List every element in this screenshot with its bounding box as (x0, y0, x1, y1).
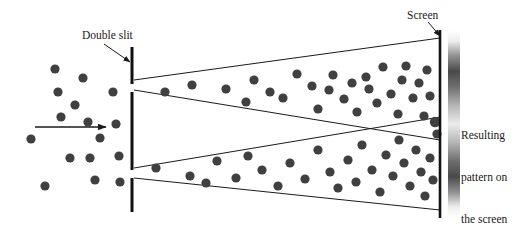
particle (419, 111, 428, 120)
particle (151, 163, 160, 172)
particle (388, 171, 397, 180)
particle (265, 87, 274, 96)
particle (324, 85, 333, 94)
particle (111, 119, 120, 128)
particle (328, 70, 337, 79)
particle (300, 174, 309, 183)
resulting-pattern-line-3: the screen (461, 212, 507, 226)
particle (65, 153, 74, 162)
screen-group (440, 30, 460, 218)
particle (343, 155, 352, 164)
particle (231, 173, 240, 182)
particle (367, 165, 376, 174)
particle (313, 104, 322, 113)
particle (397, 75, 406, 84)
particle (292, 69, 301, 78)
particle (378, 62, 387, 71)
particle (26, 134, 35, 143)
particle (361, 72, 370, 81)
resulting-pattern-label: Resulting pattern on the screen (461, 100, 507, 230)
particle (394, 135, 403, 144)
particle (85, 153, 94, 162)
particle (249, 75, 258, 84)
particle (307, 81, 316, 90)
particle (78, 73, 87, 82)
particle (40, 181, 49, 190)
particle (185, 171, 194, 180)
particle (420, 191, 429, 200)
leader-lines-group (104, 22, 440, 62)
particle (357, 140, 366, 149)
particle (83, 117, 92, 126)
particle (425, 153, 434, 162)
particle (422, 65, 431, 74)
particle (347, 78, 356, 87)
screen-label: Screen (407, 8, 438, 22)
particle (408, 93, 417, 102)
particle (364, 84, 373, 93)
particle (70, 100, 79, 109)
particle (430, 117, 440, 127)
particle (351, 177, 360, 186)
particle (375, 187, 384, 196)
double-slit-label: Double slit (82, 28, 133, 42)
particle (372, 98, 381, 107)
particle (399, 158, 408, 167)
particle (352, 107, 361, 116)
particle (50, 64, 59, 73)
particle (285, 158, 294, 167)
particle (115, 177, 124, 186)
particle (95, 133, 104, 142)
particle (108, 87, 117, 96)
particle (401, 61, 410, 70)
particle (273, 181, 282, 190)
particle (221, 84, 230, 93)
particle (187, 80, 196, 89)
resulting-pattern-line-2: pattern on (461, 170, 507, 184)
particle (90, 175, 99, 184)
particle (381, 150, 390, 159)
particle (428, 175, 437, 184)
particle (114, 151, 123, 160)
particle (53, 87, 62, 96)
particle (393, 109, 402, 118)
particle (325, 167, 334, 176)
double-slit-leader-line (104, 44, 130, 62)
screen-leader-line (428, 22, 440, 36)
particle (339, 94, 348, 103)
particle (313, 145, 322, 154)
diagram-canvas (0, 0, 523, 230)
particle (416, 167, 425, 176)
particle (241, 97, 250, 106)
particle (201, 178, 210, 187)
particle (212, 156, 221, 165)
particle (411, 145, 420, 154)
particle (386, 89, 395, 98)
lower-beam-particles-group (151, 129, 441, 200)
particle (278, 93, 287, 102)
particle (160, 87, 169, 96)
particle (405, 181, 414, 190)
particle (414, 78, 423, 87)
upper-cone-edge-top (134, 38, 440, 80)
double-slit-figure: Double slit Screen Resulting pattern on … (0, 0, 523, 230)
particle (243, 151, 252, 160)
particle (56, 112, 65, 121)
resulting-pattern-line-1: Resulting (461, 128, 507, 142)
lower-cone-edge-bottom (134, 178, 440, 210)
particle (425, 91, 434, 100)
particle (257, 165, 266, 174)
particle (333, 183, 342, 192)
interference-pattern-strip (448, 30, 460, 218)
